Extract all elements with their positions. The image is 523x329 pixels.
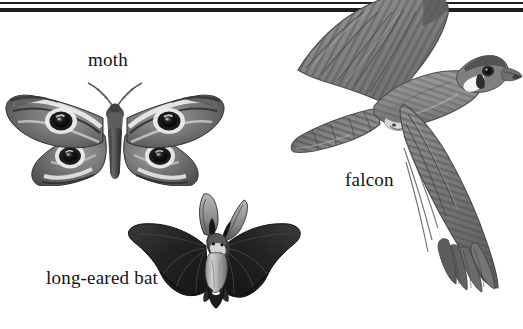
falcon-tail <box>291 108 380 152</box>
falcon-head <box>457 56 522 93</box>
falcon-illustration <box>282 0 523 312</box>
bat-ears <box>200 194 248 240</box>
label-falcon: falcon <box>345 169 394 191</box>
illustration-plate: moth falcon long-eared bat <box>0 0 523 329</box>
moth-body <box>106 104 124 180</box>
bat-body <box>203 233 229 308</box>
moth-eyespot-upper-left <box>45 108 77 134</box>
falcon-lower-wing <box>400 104 498 292</box>
moth-antennae <box>88 83 142 105</box>
label-moth: moth <box>88 49 128 71</box>
long-eared-bat-illustration <box>124 190 304 312</box>
moth-right-forewing <box>127 95 224 148</box>
moth-eyespot-upper-right <box>153 108 185 134</box>
falcon-eye <box>482 66 494 77</box>
label-long-eared-bat: long-eared bat <box>46 267 158 289</box>
moth-illustration <box>4 58 226 186</box>
moth-left-forewing <box>6 95 103 148</box>
